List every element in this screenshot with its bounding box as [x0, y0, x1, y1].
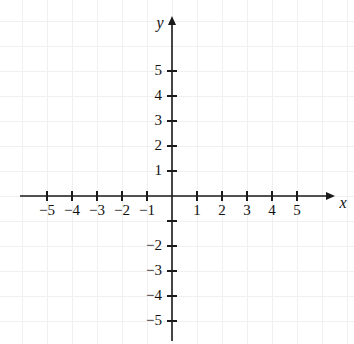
x-tick-label: 4 — [268, 202, 276, 218]
x-tick-label: 1 — [193, 202, 201, 218]
x-tick-label: −2 — [114, 202, 130, 218]
x-tick-label: 5 — [293, 202, 301, 218]
x-tick-label: −4 — [64, 202, 80, 218]
y-tick-label: −4 — [146, 287, 162, 303]
y-tick-label: −3 — [146, 262, 162, 278]
x-tick-label: 3 — [243, 202, 251, 218]
x-tick-label: 2 — [218, 202, 226, 218]
y-tick-label: 1 — [155, 162, 163, 178]
y-axis-label: y — [154, 14, 164, 32]
y-tick-label: 5 — [155, 62, 163, 78]
x-tick-label: −5 — [39, 202, 55, 218]
coordinate-plane: −5−4−3−2−11234554321−2−3−4−5 x y — [0, 0, 354, 344]
graph-canvas: −5−4−3−2−11234554321−2−3−4−5 x y — [0, 0, 354, 344]
y-tick-label: −5 — [146, 312, 162, 328]
x-axis-label: x — [338, 194, 346, 211]
y-tick-label: −2 — [146, 237, 162, 253]
y-tick-label: 4 — [155, 87, 163, 103]
plot-background — [0, 0, 354, 344]
x-tick-label: −1 — [139, 202, 155, 218]
x-tick-label: −3 — [89, 202, 105, 218]
y-tick-label: 3 — [155, 112, 163, 128]
y-tick-label: 2 — [155, 137, 163, 153]
